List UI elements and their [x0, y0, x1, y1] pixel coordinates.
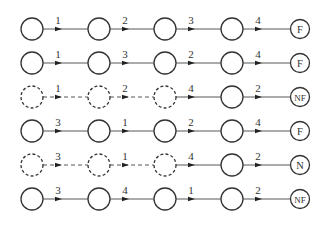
state-node	[221, 154, 243, 176]
arrowhead-icon	[122, 163, 129, 167]
arrowhead-icon	[188, 61, 195, 65]
arrowhead-icon	[55, 61, 62, 65]
sequence-row: 1234F	[21, 14, 310, 40]
terminal-label: N	[296, 160, 304, 171]
arrowhead-icon	[55, 27, 62, 31]
terminal-label: NF	[294, 195, 306, 205]
arrowhead-icon	[188, 163, 195, 167]
edge-label: 3	[188, 14, 194, 26]
edge-label: 2	[122, 82, 128, 94]
state-node	[21, 120, 43, 142]
state-node	[21, 188, 43, 210]
state-node	[154, 86, 176, 108]
state-node	[88, 18, 110, 40]
edge-label: 3	[55, 116, 61, 128]
terminal-label: NF	[294, 93, 306, 103]
state-node	[21, 52, 43, 74]
edge-label: 1	[188, 184, 194, 196]
state-node	[221, 86, 243, 108]
sequence-row: 3142N	[21, 150, 310, 176]
arrowhead-icon	[188, 129, 195, 133]
sequence-diagram: 1234F1324F1242NF3124F3142N3412NF	[0, 0, 328, 228]
edge-label: 2	[255, 184, 261, 196]
state-node	[221, 52, 243, 74]
sequence-row: 1242NF	[21, 82, 310, 108]
arrowhead-icon	[122, 95, 129, 99]
arrowhead-icon	[122, 197, 129, 201]
arrowhead-icon	[122, 129, 129, 133]
terminal-label: F	[297, 126, 303, 137]
state-node	[21, 18, 43, 40]
arrowhead-icon	[255, 95, 262, 99]
state-node	[88, 120, 110, 142]
sequence-row: 3412NF	[21, 184, 310, 210]
arrowhead-icon	[55, 197, 62, 201]
state-node	[154, 154, 176, 176]
state-node	[88, 188, 110, 210]
state-node	[154, 18, 176, 40]
arrowhead-icon	[188, 27, 195, 31]
edge-label: 2	[122, 14, 128, 26]
edge-label: 4	[255, 14, 261, 26]
edge-label: 4	[255, 116, 261, 128]
state-node	[88, 86, 110, 108]
edge-label: 2	[255, 82, 261, 94]
edge-label: 4	[188, 150, 194, 162]
arrowhead-icon	[255, 129, 262, 133]
edge-label: 2	[188, 116, 194, 128]
state-node	[21, 86, 43, 108]
state-node	[221, 120, 243, 142]
arrowhead-icon	[255, 61, 262, 65]
edge-label: 3	[55, 150, 61, 162]
terminal-label: F	[297, 58, 303, 69]
arrowhead-icon	[255, 163, 262, 167]
state-node	[154, 120, 176, 142]
state-node	[154, 52, 176, 74]
edge-label: 3	[122, 48, 128, 60]
arrowhead-icon	[55, 129, 62, 133]
edge-label: 2	[255, 150, 261, 162]
edge-label: 2	[188, 48, 194, 60]
arrowhead-icon	[55, 163, 62, 167]
sequence-row: 3124F	[21, 116, 310, 142]
edge-label: 3	[55, 184, 61, 196]
arrowhead-icon	[188, 95, 195, 99]
edge-label: 1	[55, 82, 61, 94]
state-node	[221, 188, 243, 210]
edge-label: 4	[255, 48, 261, 60]
arrowhead-icon	[122, 27, 129, 31]
state-node	[88, 52, 110, 74]
edge-label: 4	[188, 82, 194, 94]
arrowhead-icon	[188, 197, 195, 201]
edge-label: 1	[55, 14, 61, 26]
edge-label: 1	[122, 150, 128, 162]
state-node	[21, 154, 43, 176]
state-node	[221, 18, 243, 40]
state-node	[88, 154, 110, 176]
edge-label: 4	[122, 184, 128, 196]
arrowhead-icon	[122, 61, 129, 65]
terminal-label: F	[297, 24, 303, 35]
edge-label: 1	[55, 48, 61, 60]
arrowhead-icon	[255, 197, 262, 201]
state-node	[154, 188, 176, 210]
arrowhead-icon	[55, 95, 62, 99]
edge-label: 1	[122, 116, 128, 128]
sequence-row: 1324F	[21, 48, 310, 74]
arrowhead-icon	[255, 27, 262, 31]
